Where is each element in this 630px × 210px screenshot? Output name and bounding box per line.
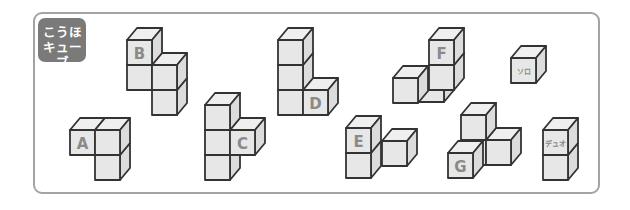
cube-front-face (278, 40, 303, 65)
cube-label: D (309, 95, 321, 113)
cube-shape-solo: ソロ (511, 46, 546, 83)
cube-front-face (95, 130, 120, 155)
cube-shape-F: F (393, 28, 464, 103)
cube (278, 28, 313, 65)
cube-front-face (393, 78, 418, 103)
cube-front-face (346, 153, 371, 178)
cube-front-face (205, 155, 230, 180)
cube: B (127, 28, 162, 65)
cube-label: G (454, 158, 466, 176)
cube: デュオ (543, 118, 578, 155)
cube-front-face (486, 140, 511, 165)
cube (393, 66, 428, 103)
cube-front-face (278, 90, 303, 115)
cube-shape-G: G (448, 103, 521, 178)
cube-front-face (382, 141, 407, 166)
cube-shape-A: A (70, 118, 130, 180)
cube-shape-E: E (346, 116, 417, 178)
cube-front-face (95, 155, 120, 180)
cube-front-face (543, 155, 568, 180)
cube-label: デュオ (545, 139, 566, 148)
cube-label: E (353, 133, 363, 151)
cube-front-face (152, 90, 177, 115)
cube (205, 93, 240, 130)
cube-shape-duo: デュオ (543, 118, 578, 180)
cube: F (429, 28, 464, 65)
cube-front-face (205, 105, 230, 130)
cube-label: C (237, 135, 248, 153)
cube-shape-B: B (127, 28, 187, 115)
cube (95, 118, 130, 155)
cube (382, 129, 417, 166)
cube-shape-C: C (205, 93, 265, 180)
cube (461, 103, 496, 140)
cube-front-face (278, 65, 303, 90)
cube: G (448, 141, 483, 178)
cube: E (346, 116, 381, 153)
cube-label: F (436, 45, 446, 63)
cube-front-face (152, 65, 177, 90)
cube-label: B (134, 45, 145, 63)
cube-label: A (77, 135, 89, 153)
cube-figures: ABCDEFGソロデュオ (0, 0, 630, 210)
cube-front-face (461, 115, 486, 140)
cube-shape-D: D (278, 28, 338, 115)
cube-front-face (205, 130, 230, 155)
cube-front-face (127, 65, 152, 90)
cube-front-face (429, 65, 454, 90)
cube-label: ソロ (517, 68, 531, 76)
cube: ソロ (511, 46, 546, 83)
